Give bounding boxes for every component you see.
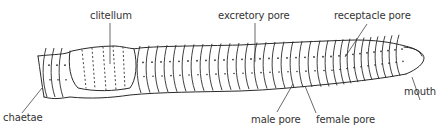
label-chaetae: chaetae [3, 112, 43, 123]
label-clitellum: clitellum [90, 10, 132, 21]
label-male-pore: male pore [251, 114, 301, 125]
label-female-pore: female pore [316, 114, 375, 125]
mouth-tip-outline [404, 47, 424, 74]
female-pore-pointer [305, 86, 316, 113]
clitellum-outline [69, 49, 136, 91]
body-segments [43, 35, 404, 97]
chaetae-pointer [22, 88, 42, 113]
body-outline-bottom [44, 74, 406, 99]
body-outline-top [38, 40, 422, 56]
label-mouth: mouth [404, 86, 436, 97]
earthworm-diagram: clitellum excretory pore receptacle pore… [0, 0, 440, 138]
label-excretory-pore: excretory pore [218, 10, 290, 21]
label-receptacle-pore: receptacle pore [334, 10, 411, 21]
